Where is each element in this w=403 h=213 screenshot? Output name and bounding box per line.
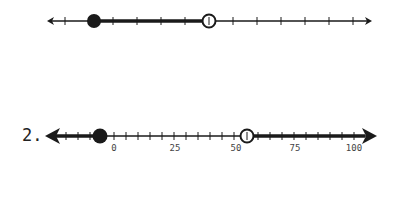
number-line-figure <box>0 0 403 213</box>
tick-label: 100 <box>346 143 362 153</box>
tick-label: 50 <box>231 143 242 153</box>
problem-number-label: 2. <box>22 125 42 145</box>
closed-point-dot <box>93 129 108 144</box>
closed-point-dot <box>87 14 101 28</box>
tick-label: 75 <box>290 143 301 153</box>
tick-label: 0 <box>111 143 116 153</box>
number-line-2 <box>45 128 377 144</box>
number-line-1 <box>47 14 372 28</box>
tick-label: 25 <box>170 143 181 153</box>
